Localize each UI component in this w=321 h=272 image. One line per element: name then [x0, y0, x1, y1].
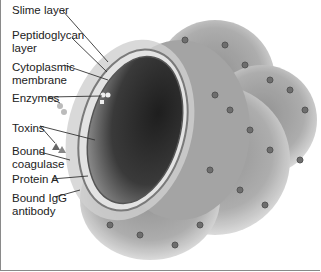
label-bound-igg-antibody: Bound IgG antibody [12, 192, 67, 218]
label-peptidoglycan-layer: Peptidoglycan layer [12, 29, 84, 55]
label-slime-layer: Slime layer [12, 4, 69, 17]
label-cytoplasmic-membrane: Cytoplasmic membrane [12, 61, 75, 87]
label-bound-coagulase: Bound coagulase [12, 145, 64, 171]
label-protein-a: Protein A [12, 173, 59, 186]
label-toxins: Toxins [12, 122, 45, 135]
label-enzymes: Enzymes [12, 92, 59, 105]
